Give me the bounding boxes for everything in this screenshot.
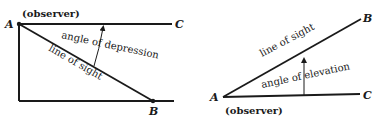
point-c-label: C: [175, 18, 184, 31]
line-of-sight-label: line of sight: [47, 42, 104, 82]
horizontal-line-ac: [223, 94, 360, 97]
line-of-sight-label: line of sight: [258, 21, 316, 59]
point-a-dot: [17, 22, 21, 26]
observer-label: (observer): [225, 105, 283, 116]
point-c-label: C: [363, 89, 372, 102]
point-a-label: A: [209, 91, 219, 104]
point-a-label: A: [4, 18, 14, 31]
depression-figure: (observer) A C B angle of depression lin…: [4, 8, 184, 118]
angle-label: angle of elevation: [260, 60, 351, 90]
diagram-canvas: (observer) A C B angle of depression lin…: [0, 0, 382, 124]
elevation-figure: A B C (observer) line of sight angle of …: [209, 12, 372, 116]
point-b-dot: [151, 99, 155, 103]
point-b-label: B: [362, 12, 372, 25]
point-b-label: B: [148, 105, 158, 118]
observer-label: (observer): [22, 8, 80, 19]
